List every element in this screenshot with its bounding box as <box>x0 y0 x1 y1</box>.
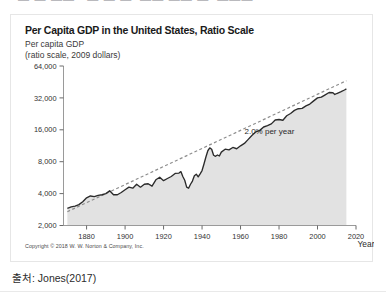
clipped-header-text: ▬ ▬ ▬▬ ▬ ▬ ▬ ▬▬ ▬▬ ▬ ▬▬▬ <box>18 0 254 3</box>
y-tick-label: 4,000 <box>38 189 57 198</box>
y-tick-label: 32,000 <box>34 94 57 103</box>
gdp-chart: 64,00032,00016,0008,0004,0002,000 188019… <box>11 15 374 263</box>
y-tick-label: 8,000 <box>38 157 57 166</box>
figure-card: Per Capita GDP in the United States, Rat… <box>10 14 373 262</box>
caption-divider <box>0 291 386 292</box>
x-tick-label: 1980 <box>271 232 287 241</box>
x-axis-ticks: 18801900192019401960198020002020 <box>78 226 364 241</box>
y-axis-ticks: 64,00032,00016,0008,0004,0002,000 <box>34 62 64 231</box>
y-tick-label: 2,000 <box>38 221 57 230</box>
y-tick-label: 16,000 <box>34 125 57 134</box>
chart-annotations: 2.0% per year <box>244 127 294 136</box>
x-tick-label: 1880 <box>78 232 94 241</box>
gdp-area-fill <box>67 89 346 226</box>
source-caption: 출처: Jones(2017) <box>12 270 96 285</box>
clipped-header-strip: ▬ ▬ ▬▬ ▬ ▬ ▬ ▬▬ ▬▬ ▬ ▬▬▬ <box>0 0 386 9</box>
x-tick-label: 1920 <box>155 232 171 241</box>
x-tick-label: 1900 <box>117 232 133 241</box>
growth-rate-annotation: 2.0% per year <box>244 127 294 136</box>
x-tick-label: 1960 <box>232 232 248 241</box>
copyright-notice: Copyright © 2018 W. W. Norton & Company,… <box>25 243 144 249</box>
x-axis-title: Year <box>358 239 374 249</box>
y-tick-label: 64,000 <box>34 62 57 71</box>
x-tick-label: 1940 <box>194 232 210 241</box>
x-tick-label: 2000 <box>309 232 325 241</box>
